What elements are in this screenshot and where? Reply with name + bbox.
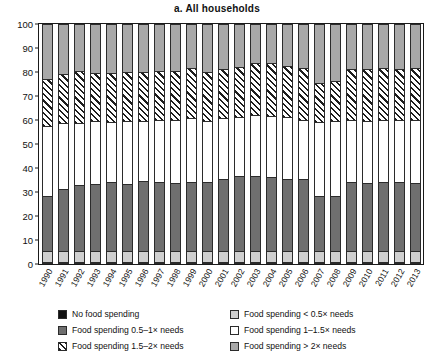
bar-segment-none (170, 262, 181, 264)
bar-segment-none (186, 262, 197, 264)
y-axis-tick-label: 0 (1, 259, 39, 270)
bar-2008[interactable] (330, 24, 341, 264)
legend-item-s1to15[interactable]: Food spending 1–1.5× needs (230, 326, 418, 335)
bar-segment-s1to15 (362, 121, 373, 183)
legend-item-none[interactable]: No food spending (58, 310, 230, 319)
bar-segment-s15to2 (394, 69, 405, 119)
bar-segment-s15to2 (282, 66, 293, 117)
bar-segment-s05to1 (42, 196, 53, 251)
legend-item-gt2[interactable]: Food spending > 2× needs (230, 342, 418, 351)
bar-1994[interactable] (106, 24, 117, 264)
bar-1990[interactable] (42, 24, 53, 264)
bar-segment-none (298, 262, 309, 264)
y-axis-tick-label: 40 (1, 163, 39, 174)
bar-segment-lt05 (138, 251, 149, 262)
bar-segment-gt2 (394, 24, 405, 69)
bar-segment-s05to1 (202, 182, 213, 251)
bar-1999[interactable] (186, 24, 197, 264)
x-axis-tick: 2005 (281, 265, 292, 307)
bar-1993[interactable] (90, 24, 101, 264)
x-axis-tick: 2011 (377, 265, 388, 307)
bar-segment-s15to2 (298, 68, 309, 119)
bar-segment-none (90, 262, 101, 264)
bar-segment-s15to2 (266, 63, 277, 116)
bar-segment-s15to2 (154, 71, 165, 120)
legend-item-s15to2[interactable]: Food spending 1.5–2× needs (58, 342, 230, 351)
bar-segment-lt05 (234, 251, 245, 262)
bar-2004[interactable] (266, 24, 277, 264)
bar-segment-gt2 (154, 24, 165, 71)
bar-segment-s15to2 (170, 71, 181, 120)
x-axis-tick-label: 1996 (133, 267, 151, 288)
bar-segment-s15to2 (314, 83, 325, 122)
bar-2013[interactable] (410, 24, 421, 264)
bar-segment-gt2 (346, 24, 357, 69)
bar-2010[interactable] (362, 24, 373, 264)
bar-segment-gt2 (218, 24, 229, 69)
bar-segment-lt05 (154, 251, 165, 262)
bar-1996[interactable] (138, 24, 149, 264)
legend-label: Food spending 0.5–1× needs (72, 326, 184, 335)
bar-segment-none (122, 262, 133, 264)
x-axis-tick-label: 2004 (261, 267, 279, 288)
bar-segment-s05to1 (186, 182, 197, 251)
legend-label: Food spending 1.5–2× needs (72, 342, 184, 351)
bar-2009[interactable] (346, 24, 357, 264)
legend-item-s05to1[interactable]: Food spending 0.5–1× needs (58, 326, 230, 335)
bar-1998[interactable] (170, 24, 181, 264)
legend-item-lt05[interactable]: Food spending < 0.5× needs (230, 310, 418, 319)
bar-1995[interactable] (122, 24, 133, 264)
x-axis-tick: 1993 (89, 265, 100, 307)
bar-segment-none (282, 262, 293, 264)
x-axis-tick: 2009 (345, 265, 356, 307)
bar-segment-s1to15 (42, 126, 53, 197)
bar-segment-s15to2 (346, 69, 357, 119)
bar-2012[interactable] (394, 24, 405, 264)
x-axis-tick: 2002 (233, 265, 244, 307)
bar-2011[interactable] (378, 24, 389, 264)
legend-label: Food spending < 0.5× needs (244, 310, 353, 319)
legend-swatch-s15to2-icon (58, 342, 67, 351)
bar-segment-s05to1 (170, 183, 181, 251)
y-axis-tick-label: 20 (1, 211, 39, 222)
bar-2001[interactable] (218, 24, 229, 264)
bar-1997[interactable] (154, 24, 165, 264)
bar-segment-none (234, 262, 245, 264)
bar-segment-lt05 (410, 251, 421, 262)
bar-1992[interactable] (74, 24, 85, 264)
bar-segment-none (42, 262, 53, 264)
bar-segment-lt05 (186, 251, 197, 262)
x-axis-tick-label: 2008 (325, 267, 343, 288)
bar-2000[interactable] (202, 24, 213, 264)
bar-segment-none (58, 262, 69, 264)
bar-segment-s15to2 (410, 68, 421, 119)
x-axis-tick: 1991 (57, 265, 68, 307)
bar-segment-s05to1 (346, 182, 357, 251)
y-axis-tick-label: 30 (1, 187, 39, 198)
x-axis-tick-label: 2003 (245, 267, 263, 288)
y-axis-tick-label: 60 (1, 115, 39, 126)
bar-segment-lt05 (362, 251, 373, 262)
bar-segment-lt05 (378, 251, 389, 262)
x-axis-tick-label: 1994 (101, 267, 119, 288)
bar-2006[interactable] (298, 24, 309, 264)
bar-segment-gt2 (266, 24, 277, 63)
bar-2007[interactable] (314, 24, 325, 264)
bar-segment-s1to15 (282, 117, 293, 179)
bar-1991[interactable] (58, 24, 69, 264)
bar-2005[interactable] (282, 24, 293, 264)
bar-segment-s05to1 (410, 183, 421, 251)
bar-segment-none (378, 262, 389, 264)
bar-2002[interactable] (234, 24, 245, 264)
bar-segment-lt05 (346, 251, 357, 262)
bar-segment-none (74, 262, 85, 264)
x-axis-tick: 2008 (329, 265, 340, 307)
bar-segment-lt05 (106, 251, 117, 262)
bar-segment-s1to15 (170, 120, 181, 183)
bar-segment-s1to15 (90, 121, 101, 184)
plot-area: Percent 0102030405060708090100 (38, 23, 424, 265)
bar-segment-s1to15 (202, 121, 213, 182)
bar-2003[interactable] (250, 24, 261, 264)
legend-swatch-s1to15-icon (230, 326, 239, 335)
bar-segment-lt05 (394, 251, 405, 262)
